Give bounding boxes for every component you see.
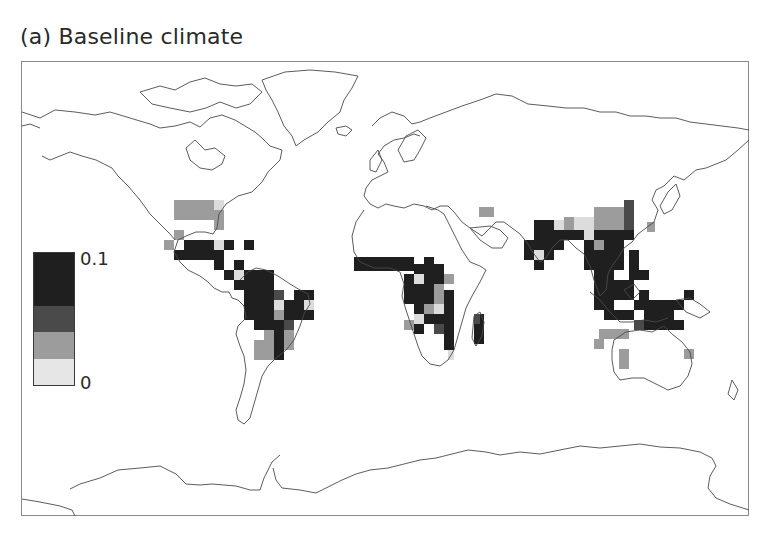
grid-cell: [619, 329, 629, 339]
grid-cell: [224, 240, 234, 250]
grid-cell: [554, 220, 564, 230]
grid-cell: [234, 270, 244, 280]
grid-cell: [274, 310, 284, 320]
grid-cell: [354, 257, 414, 271]
grid-cell: [674, 320, 684, 330]
grid-cell: [284, 320, 294, 330]
grid-cell: [174, 230, 184, 240]
grid-cell: [244, 300, 274, 320]
grid-cell: [244, 240, 254, 250]
grid-cell: [624, 200, 634, 230]
grid-cell: [254, 350, 274, 360]
grid-cell: [444, 310, 454, 330]
legend-swatch-mid-low: [34, 332, 74, 358]
grid-cell: [414, 324, 424, 334]
grid-cell: [644, 310, 654, 320]
coastline-new-zealand: [728, 380, 738, 400]
grid-cell: [274, 290, 284, 300]
grid-cell: [214, 240, 224, 250]
grid-cell: [619, 349, 629, 369]
grid-cell: [594, 230, 634, 240]
grid-cell: [479, 207, 494, 217]
grid-cell: [284, 300, 294, 320]
grid-cell: [444, 290, 454, 310]
grid-cell: [184, 240, 214, 250]
grid-cell: [174, 250, 224, 260]
grid-cell: [624, 310, 634, 320]
grid-cell: [294, 300, 304, 310]
coastline-japan: [660, 184, 680, 214]
grid-cell: [424, 314, 444, 324]
grid-cell: [634, 300, 654, 310]
legend-swatch-low: [34, 359, 74, 385]
coastline-britain: [370, 150, 382, 172]
coastline-arctic-islands: [140, 78, 262, 112]
grid-cell: [174, 200, 214, 220]
grid-cell: [604, 240, 624, 250]
coastline-greenland: [262, 70, 358, 146]
legend-max-label: 0.1: [80, 248, 109, 269]
grid-cell: [594, 207, 624, 230]
coastline-hudson-bay: [186, 140, 225, 170]
grid-cell: [424, 304, 434, 314]
world-map: [0, 0, 770, 542]
grid-cell: [274, 300, 284, 310]
grid-cell: [434, 324, 444, 334]
grid-cell: [534, 230, 564, 240]
grid-cell: [424, 274, 444, 284]
grid-cell: [254, 320, 284, 330]
grid-cell: [414, 274, 424, 284]
grid-cell: [284, 330, 294, 340]
grid-cell: [604, 310, 624, 320]
grid-cell: [599, 329, 619, 339]
grid-cell: [647, 222, 655, 232]
grid-cell: [254, 340, 274, 350]
legend-swatch-high: [34, 253, 74, 306]
risk-grid-cells: [164, 200, 694, 369]
grid-cell: [234, 260, 244, 270]
grid-cell: [264, 330, 274, 340]
grid-cell: [434, 284, 444, 304]
grid-cell: [564, 230, 584, 240]
grid-cell: [224, 270, 234, 280]
colorbar-legend: [33, 252, 75, 386]
legend-swatch-mid-high: [34, 306, 74, 332]
grid-cell: [534, 260, 544, 270]
grid-cell: [564, 217, 574, 230]
grid-cell: [584, 230, 594, 240]
coastline-iceland: [336, 126, 352, 136]
grid-cell: [574, 217, 594, 230]
grid-cell: [414, 264, 444, 274]
grid-cell: [214, 210, 224, 230]
grid-cell: [594, 270, 614, 310]
coastline-antarctica: [22, 444, 749, 516]
grid-cell: [639, 290, 649, 300]
grid-cell: [534, 220, 554, 230]
legend-min-label: 0: [80, 372, 91, 393]
grid-cell: [214, 260, 224, 270]
grid-cell: [654, 310, 664, 320]
grid-cell: [594, 240, 604, 250]
grid-cell: [444, 330, 454, 350]
grid-cell: [414, 314, 424, 324]
grid-cell: [594, 339, 604, 349]
grid-cell: [404, 284, 434, 304]
grid-cell: [534, 250, 544, 260]
grid-cell: [234, 280, 274, 290]
grid-cell: [434, 304, 444, 314]
grid-cell: [444, 274, 454, 284]
grid-cell: [639, 270, 649, 280]
grid-cell: [164, 240, 174, 250]
grid-cell: [629, 250, 639, 280]
grid-cell: [274, 330, 284, 350]
